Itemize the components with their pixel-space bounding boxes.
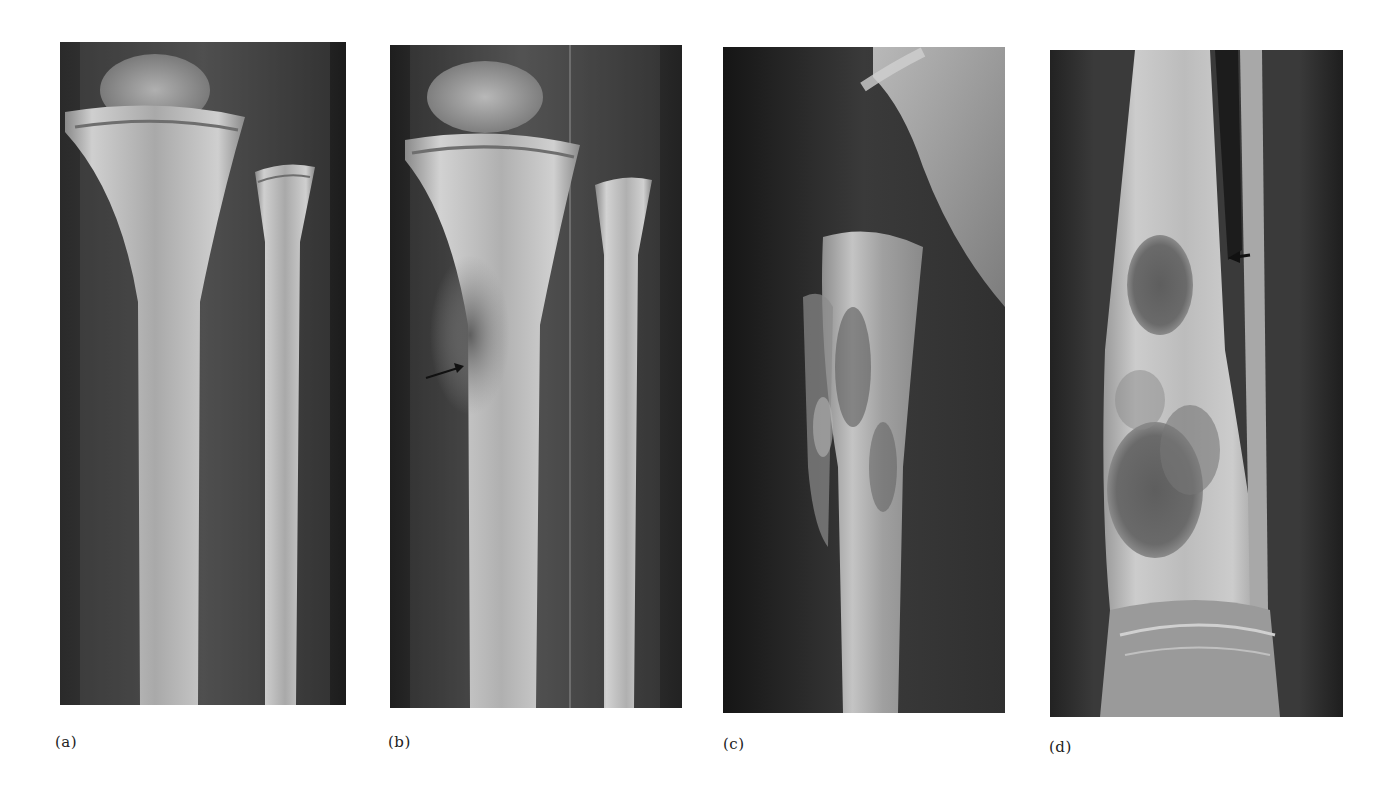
panel-label-a: (a) (55, 733, 77, 751)
radiograph-panel-c (723, 47, 1005, 713)
xray-image-a (60, 42, 346, 705)
panel-label-d: (d) (1049, 738, 1072, 756)
xray-image-c (723, 47, 1005, 713)
radiograph-panel-a (60, 42, 346, 705)
panel-label-b: (b) (388, 733, 411, 751)
panel-label-c: (c) (723, 735, 745, 753)
radiograph-panel-b (390, 45, 682, 708)
xray-image-d (1050, 50, 1343, 717)
xray-image-b (390, 45, 682, 708)
radiograph-panel-d (1050, 50, 1343, 717)
